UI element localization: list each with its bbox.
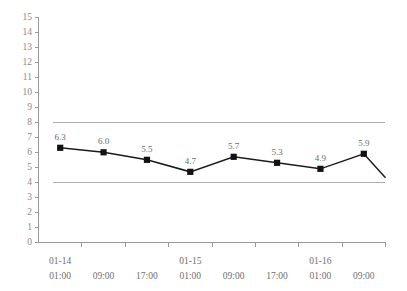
- line-chart: 151413121110987654321001-1401:0009:0017:…: [0, 0, 407, 291]
- x-tick-time-label: 17:00: [266, 271, 288, 281]
- x-tick-time-label: 17:00: [136, 271, 158, 281]
- series-line: [60, 148, 385, 178]
- x-tick-time-label: 09:00: [223, 271, 245, 281]
- y-tick-label: 5: [27, 162, 32, 172]
- x-tick-date-label: 01-14: [49, 256, 71, 266]
- y-tick-label: 0: [27, 237, 32, 247]
- x-tick-time-label: 01:00: [310, 271, 332, 281]
- y-tick-label: 7: [27, 132, 32, 142]
- data-point-label: 5.9: [358, 138, 370, 148]
- x-tick-time-label: 01:00: [179, 271, 201, 281]
- data-point-label: 6.0: [98, 136, 110, 146]
- data-point-label: 5.3: [271, 147, 283, 157]
- y-tick-label: 14: [23, 27, 33, 37]
- x-tick-time-label: 09:00: [353, 271, 375, 281]
- y-tick-label: 11: [23, 72, 32, 82]
- x-tick-time-label: 01:00: [49, 271, 71, 281]
- x-tick-time-label: 09:00: [93, 271, 115, 281]
- y-tick-label: 12: [23, 57, 33, 67]
- y-tick-label: 15: [23, 12, 33, 22]
- data-point-marker: [144, 157, 150, 163]
- data-point-marker: [361, 151, 367, 157]
- x-tick-date-label: 01-15: [179, 256, 201, 266]
- x-tick-date-label: 01-16: [309, 256, 331, 266]
- data-point-marker: [187, 169, 193, 175]
- y-tick-label: 1: [27, 222, 32, 232]
- data-point-marker: [317, 166, 323, 172]
- y-tick-label: 8: [27, 117, 32, 127]
- y-tick-label: 3: [27, 192, 32, 202]
- data-point-label: 4.9: [315, 153, 327, 163]
- y-tick-label: 13: [23, 42, 33, 52]
- data-point-marker: [100, 149, 106, 155]
- y-tick-label: 10: [23, 87, 33, 97]
- data-point-label: 5.7: [228, 141, 240, 151]
- y-tick-label: 2: [27, 207, 32, 217]
- y-tick-label: 6: [27, 147, 32, 157]
- data-point-marker: [231, 154, 237, 160]
- y-tick-label: 4: [27, 177, 32, 187]
- data-point-label: 5.5: [141, 144, 153, 154]
- data-point-marker: [57, 145, 63, 151]
- data-point-label: 6.3: [55, 132, 67, 142]
- chart-canvas: 151413121110987654321001-1401:0009:0017:…: [0, 0, 407, 291]
- data-point-label: 4.7: [185, 156, 197, 166]
- data-point-marker: [274, 160, 280, 166]
- y-tick-label: 9: [27, 102, 32, 112]
